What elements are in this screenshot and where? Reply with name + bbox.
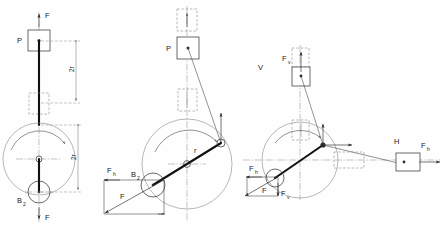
force-h-label-left-sub: h — [255, 169, 258, 175]
force-v-label-low: F — [281, 189, 286, 198]
engineering-diagram: F P B 2 F — [0, 0, 446, 232]
vertical-axis-label: V — [258, 63, 263, 72]
phantom-block-top — [292, 48, 309, 67]
force-v-label-low-sub: v — [287, 194, 290, 200]
force-h-label-right-sub: h — [427, 146, 430, 152]
crank-pin-label-sub: 2 — [23, 201, 26, 207]
phantom-block-middle-v — [292, 120, 309, 140]
connecting-rod-vertical — [301, 76, 323, 145]
dimension-upper-label: 2r — [68, 65, 75, 72]
panel-middle: P r B 2 — [104, 6, 232, 222]
horizontal-axis-label: H — [394, 137, 399, 146]
force-h-label: F — [107, 166, 112, 175]
connecting-rod — [188, 48, 221, 143]
rotation-direction-arc — [155, 130, 217, 152]
panel-right: V H F v — [243, 45, 440, 200]
force-v-label-top: F — [282, 54, 287, 63]
force-label-top: F — [45, 11, 50, 20]
crank-radius-label: r — [194, 146, 197, 155]
figure-canvas: F P B 2 F — [0, 0, 446, 232]
force-resultant-label: F — [120, 192, 125, 201]
phantom-block-lower — [178, 89, 197, 111]
panel-left: F P B 2 F — [3, 11, 82, 222]
force-h-label-sub: h — [113, 171, 116, 177]
dimension-lower-label: 2r — [70, 153, 77, 160]
force-label-bottom: F — [45, 213, 50, 222]
piston-block-horizontal — [396, 153, 420, 171]
force-v-label-top-sub: v — [288, 59, 291, 65]
force-resultant-label: F — [262, 186, 267, 195]
rotation-direction-arc — [275, 130, 321, 143]
force-h-label-left: F — [249, 164, 254, 173]
piston-label: P — [17, 36, 22, 45]
crank-pin-label: B — [17, 196, 22, 205]
piston-pin-dot-horizontal — [403, 161, 406, 164]
rotation-direction-arc — [11, 131, 65, 150]
force-h-label-right: F — [421, 141, 426, 150]
crank-pin-label: B — [131, 170, 136, 179]
piston-label: P — [166, 44, 171, 53]
